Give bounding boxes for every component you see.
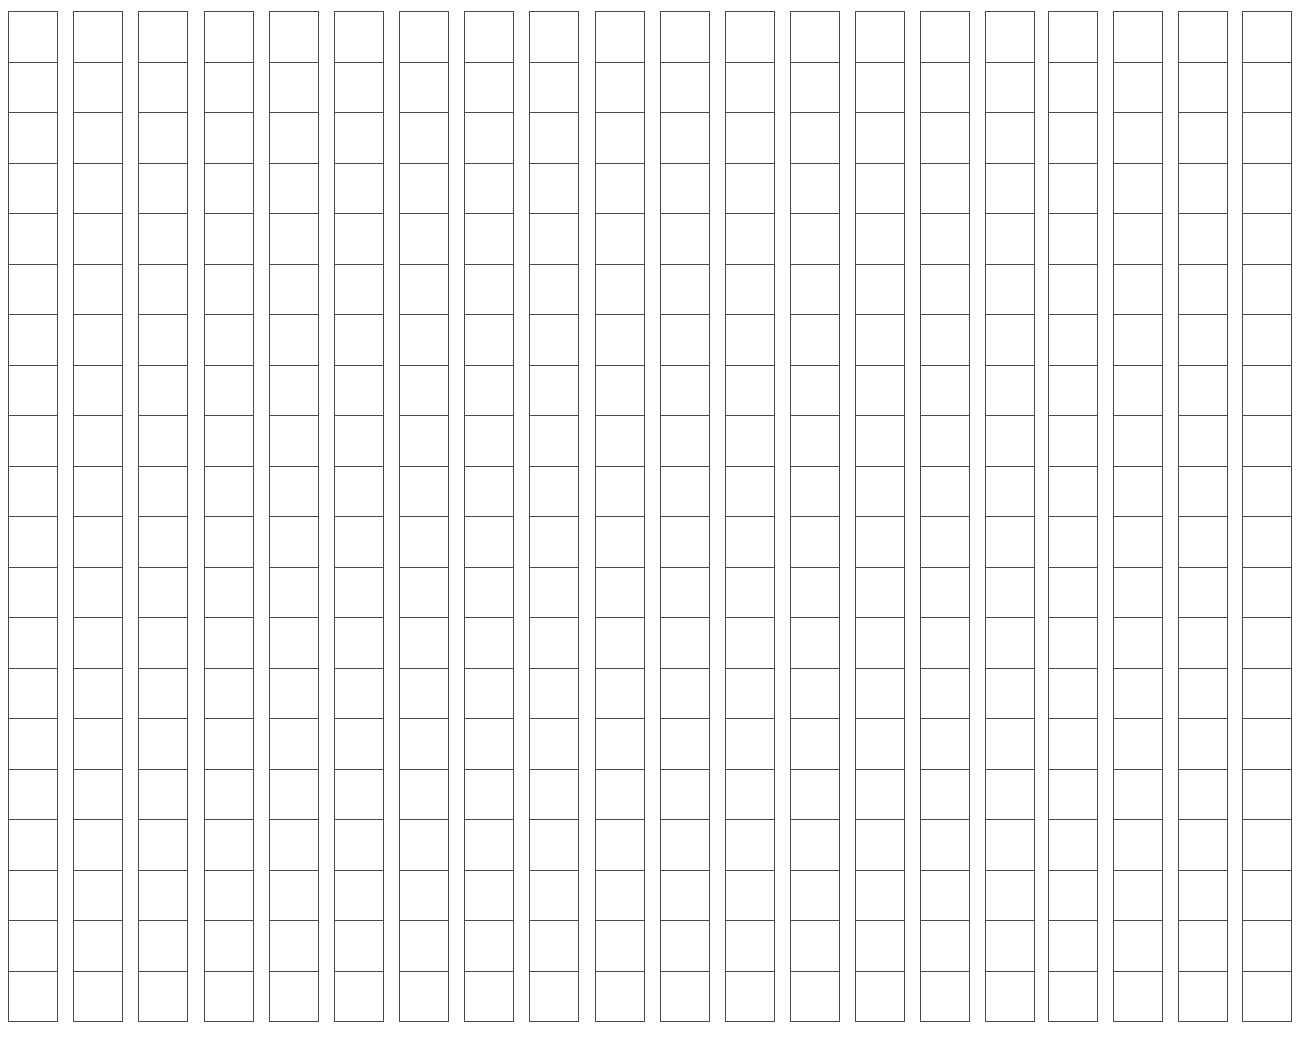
grid-cell bbox=[139, 213, 187, 264]
grid-column-9 bbox=[529, 11, 579, 1022]
grid-cell bbox=[921, 365, 969, 416]
grid-cell bbox=[9, 264, 57, 315]
grid-cell bbox=[596, 163, 644, 214]
grid-cell bbox=[791, 314, 839, 365]
grid-cell bbox=[270, 920, 318, 971]
grid-cell bbox=[986, 617, 1034, 668]
grid-column-2 bbox=[73, 11, 123, 1022]
grid-cell bbox=[1179, 466, 1227, 517]
grid-cell bbox=[530, 870, 578, 921]
grid-cell bbox=[400, 12, 448, 62]
grid-cell bbox=[1114, 516, 1162, 567]
grid-cell bbox=[1114, 971, 1162, 1022]
grid-cell bbox=[9, 466, 57, 517]
grid-cell bbox=[205, 62, 253, 113]
grid-cell bbox=[661, 213, 709, 264]
grid-cell bbox=[661, 62, 709, 113]
grid-cell bbox=[856, 264, 904, 315]
grid-cell bbox=[596, 668, 644, 719]
grid-cell bbox=[400, 718, 448, 769]
grid-cell bbox=[335, 314, 383, 365]
grid-cell bbox=[1049, 62, 1097, 113]
grid-cell bbox=[335, 718, 383, 769]
grid-cell bbox=[791, 516, 839, 567]
grid-cell bbox=[205, 617, 253, 668]
grid-cell bbox=[465, 870, 513, 921]
grid-cell bbox=[1114, 314, 1162, 365]
grid-cell bbox=[1114, 718, 1162, 769]
grid-cell bbox=[791, 12, 839, 62]
grid-cell bbox=[270, 62, 318, 113]
grid-cell bbox=[205, 264, 253, 315]
grid-cell bbox=[726, 314, 774, 365]
grid-cell bbox=[400, 112, 448, 163]
grid-cell bbox=[1179, 415, 1227, 466]
blank-grid-worksheet bbox=[0, 0, 1298, 1039]
grid-cell bbox=[465, 264, 513, 315]
grid-cell bbox=[9, 769, 57, 820]
grid-cell bbox=[1049, 365, 1097, 416]
grid-cell bbox=[986, 870, 1034, 921]
grid-cell bbox=[270, 12, 318, 62]
grid-column-10 bbox=[595, 11, 645, 1022]
grid-cell bbox=[726, 567, 774, 618]
grid-cell bbox=[9, 920, 57, 971]
grid-column-12 bbox=[725, 11, 775, 1022]
grid-column-6 bbox=[334, 11, 384, 1022]
grid-cell bbox=[9, 617, 57, 668]
grid-cell bbox=[465, 819, 513, 870]
grid-cell bbox=[726, 62, 774, 113]
grid-cell bbox=[465, 567, 513, 618]
grid-cell bbox=[530, 718, 578, 769]
grid-cell bbox=[921, 466, 969, 517]
grid-cell bbox=[530, 516, 578, 567]
grid-cell bbox=[270, 870, 318, 921]
grid-cell bbox=[1179, 314, 1227, 365]
grid-cell bbox=[74, 718, 122, 769]
grid-cell bbox=[1179, 718, 1227, 769]
grid-cell bbox=[270, 213, 318, 264]
grid-cell bbox=[726, 718, 774, 769]
grid-cell bbox=[335, 112, 383, 163]
grid-cell bbox=[661, 617, 709, 668]
grid-cell bbox=[1243, 264, 1291, 315]
grid-cell bbox=[1243, 314, 1291, 365]
grid-cell bbox=[856, 415, 904, 466]
grid-cell bbox=[661, 668, 709, 719]
grid-cell bbox=[465, 971, 513, 1022]
grid-cell bbox=[74, 819, 122, 870]
grid-cell bbox=[1179, 516, 1227, 567]
grid-cell bbox=[596, 213, 644, 264]
grid-cell bbox=[921, 819, 969, 870]
grid-cell bbox=[465, 12, 513, 62]
grid-column-15 bbox=[920, 11, 970, 1022]
grid-cell bbox=[1114, 567, 1162, 618]
grid-cell bbox=[1049, 466, 1097, 517]
grid-cell bbox=[661, 314, 709, 365]
grid-cell bbox=[1049, 415, 1097, 466]
grid-cell bbox=[270, 668, 318, 719]
grid-cell bbox=[791, 971, 839, 1022]
grid-cell bbox=[1114, 62, 1162, 113]
grid-cell bbox=[530, 415, 578, 466]
grid-cell bbox=[270, 516, 318, 567]
grid-cell bbox=[596, 769, 644, 820]
grid-cell bbox=[726, 819, 774, 870]
grid-cell bbox=[921, 668, 969, 719]
grid-cell bbox=[335, 365, 383, 416]
grid-cell bbox=[400, 415, 448, 466]
grid-cell bbox=[726, 516, 774, 567]
grid-cell bbox=[9, 870, 57, 921]
grid-cell bbox=[1243, 365, 1291, 416]
grid-cell bbox=[791, 870, 839, 921]
grid-cell bbox=[791, 920, 839, 971]
grid-cell bbox=[1179, 163, 1227, 214]
grid-cell bbox=[596, 264, 644, 315]
grid-cell bbox=[1049, 516, 1097, 567]
grid-cell bbox=[921, 314, 969, 365]
grid-cell bbox=[1243, 62, 1291, 113]
grid-cell bbox=[856, 819, 904, 870]
grid-cell bbox=[856, 870, 904, 921]
grid-cell bbox=[1243, 718, 1291, 769]
grid-cell bbox=[1243, 415, 1291, 466]
